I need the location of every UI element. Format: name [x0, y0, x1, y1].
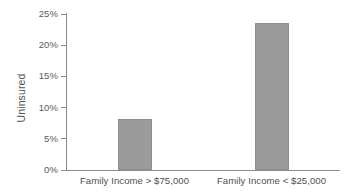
bar: [118, 119, 152, 170]
y-axis-tick-mark: [61, 45, 66, 46]
y-axis-tick-label: 10%: [39, 103, 58, 113]
bar: [255, 23, 289, 170]
y-axis-tick-label: 5%: [44, 134, 58, 144]
y-axis-tick-label: 0%: [44, 165, 58, 175]
y-axis-tick-mark: [61, 170, 66, 171]
y-axis-tick-mark: [61, 107, 66, 108]
y-axis-tick-mark: [61, 14, 66, 15]
bar-chart: Uninsured 0%5%10%15%20%25% Family Income…: [0, 0, 345, 196]
y-axis-tick-mark: [61, 138, 66, 139]
x-axis-line: [66, 170, 340, 171]
y-axis-tick-label: 25%: [39, 9, 58, 19]
x-axis-category-label: Family Income < $25,000: [203, 174, 340, 187]
x-axis-category-label: Family Income > $75,000: [66, 174, 203, 187]
y-axis-tick-mark: [61, 76, 66, 77]
y-axis-tick-label: 20%: [39, 40, 58, 50]
y-axis-tick-label: 15%: [39, 71, 58, 81]
y-axis-title: Uninsured: [14, 0, 28, 196]
y-axis-line: [66, 13, 67, 171]
